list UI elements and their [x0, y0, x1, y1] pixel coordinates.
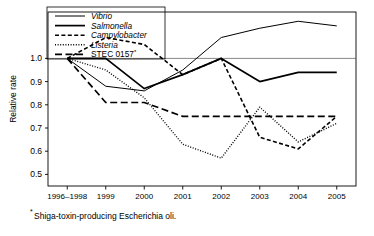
x-tick-label: 2003 [251, 192, 269, 201]
y-tick-label: 0.6 [30, 146, 42, 156]
series-line-salmonella [67, 58, 337, 88]
legend-label-listeria[interactable]: Listeria [91, 40, 118, 50]
y-tick-label: 1.0 [30, 53, 42, 63]
x-tick-label: 2000 [135, 192, 153, 201]
footnote: *Shiga-toxin-producing Escherichia oli. [30, 208, 176, 221]
legend-label-campylobacter[interactable]: Campylobacter [91, 30, 148, 40]
y-tick-label: 0.9 [30, 77, 42, 87]
y-axis-title: Relative rate [8, 75, 18, 123]
legend-label-vibrio[interactable]: Vibrio [91, 11, 112, 21]
y-tick-label: 0.5 [30, 169, 42, 179]
legend-label-stec-0157[interactable]: STEC 0157* [91, 49, 137, 59]
y-tick-label: 0.8 [30, 100, 42, 110]
legend: VibrioSalmonellaCampylobacterListeriaSTE… [55, 11, 148, 59]
y-tick-label: 0.7 [30, 123, 42, 133]
x-tick-label: 2001 [174, 192, 192, 201]
footnote-marker: * [30, 208, 33, 215]
legend-label-salmonella[interactable]: Salmonella [91, 21, 132, 31]
figure-container: 0.50.60.70.80.91.0Relative rate1996–1998… [0, 0, 374, 236]
x-tick-label: 2005 [328, 192, 346, 201]
x-tick-label: 1999 [97, 192, 115, 201]
x-tick-label: 2002 [212, 192, 230, 201]
x-tick-label: 2004 [289, 192, 307, 201]
y-axis: 0.50.60.70.80.91.0 [30, 53, 48, 179]
footnote-label: Shiga-toxin-producing Escherichia oli. [34, 211, 176, 221]
x-axis: 1996–19981999200020012002200320042005 [47, 186, 346, 201]
x-tick-label: 1996–1998 [47, 192, 88, 201]
relative-rate-line-chart: 0.50.60.70.80.91.0Relative rate1996–1998… [0, 0, 374, 236]
